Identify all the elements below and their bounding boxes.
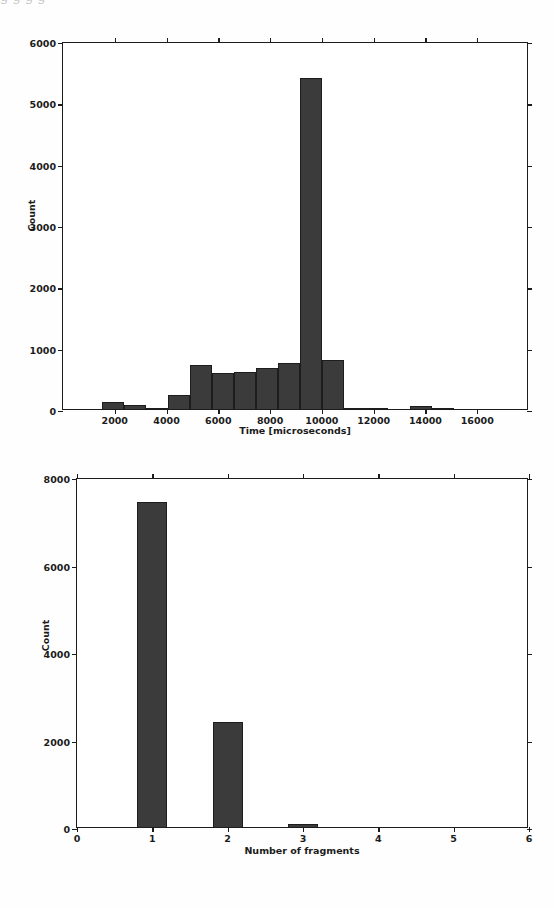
fragments-histogram-yaxis-title: Count (40, 620, 51, 652)
xtick-mark (152, 827, 153, 832)
histogram-bar (234, 372, 256, 409)
time-histogram-xaxis-title: Time [microseconds] (239, 425, 351, 436)
ytick-mark (72, 479, 77, 480)
xtick-label: 16000 (461, 415, 494, 426)
xtick-label: 4000 (153, 415, 179, 426)
xtick-mark-top (425, 38, 426, 43)
figure-page: g g g g 01000200030004000500060002000400… (0, 0, 554, 908)
xtick-label: 5 (450, 833, 457, 844)
xtick-mark-top (322, 38, 323, 43)
xtick-label: 2000 (102, 415, 128, 426)
xtick-mark (77, 827, 78, 832)
ytick-label: 6000 (44, 561, 70, 572)
xtick-label: 3 (300, 833, 307, 844)
ytick-mark-right (527, 742, 532, 743)
xtick-label: 6 (526, 833, 533, 844)
time-histogram-yaxis-title: Count (26, 200, 37, 232)
xtick-mark (374, 409, 375, 414)
xtick-mark-top (477, 38, 478, 43)
xtick-mark-top (115, 38, 116, 43)
xtick-mark (303, 827, 304, 832)
ytick-mark-right (527, 411, 532, 412)
xtick-mark (529, 827, 530, 832)
histogram-bar (432, 408, 454, 409)
xtick-mark-top (270, 38, 271, 43)
xtick-label: 0 (74, 833, 81, 844)
ytick-mark-right (527, 654, 532, 655)
histogram-bar (124, 405, 146, 409)
xtick-mark-top (167, 38, 168, 43)
xtick-mark-top (77, 474, 78, 479)
xtick-mark (115, 409, 116, 414)
xtick-mark (218, 409, 219, 414)
ytick-mark (58, 411, 63, 412)
xtick-label: 2 (224, 833, 231, 844)
fragments-histogram-figure: 020004000600080000123456 Number of fragm… (0, 455, 554, 908)
xtick-mark-top (378, 474, 379, 479)
histogram-bar (344, 408, 366, 409)
histogram-bar (410, 406, 432, 409)
ytick-mark-right (527, 104, 532, 105)
xtick-label: 4 (375, 833, 382, 844)
xtick-mark (477, 409, 478, 414)
ytick-mark-right (527, 350, 532, 351)
xtick-mark (425, 409, 426, 414)
histogram-bar (212, 373, 234, 409)
ytick-mark-right (527, 288, 532, 289)
histogram-bar (366, 408, 388, 409)
xtick-mark-top (303, 474, 304, 479)
histogram-bar (322, 360, 344, 409)
ytick-label: 6000 (30, 38, 56, 49)
xtick-mark-top (374, 38, 375, 43)
ytick-mark (72, 742, 77, 743)
xtick-label: 6000 (205, 415, 231, 426)
ytick-mark (72, 567, 77, 568)
ytick-mark-right (527, 567, 532, 568)
xtick-mark-top (454, 474, 455, 479)
ytick-mark-right (527, 227, 532, 228)
xtick-mark-top (228, 474, 229, 479)
ytick-mark-right (527, 166, 532, 167)
ytick-label: 8000 (44, 474, 70, 485)
xtick-mark-top (152, 474, 153, 479)
time-histogram-plot-area: 0100020003000400050006000200040006000800… (62, 42, 528, 410)
fragments-histogram-bars (77, 479, 527, 827)
ytick-mark (58, 350, 63, 351)
time-histogram-bars (63, 43, 527, 409)
ytick-mark-right (527, 479, 532, 480)
xtick-mark (378, 827, 379, 832)
histogram-bar (137, 502, 167, 827)
histogram-bar (278, 363, 300, 409)
ytick-mark (58, 43, 63, 44)
xtick-label: 12000 (357, 415, 390, 426)
ytick-mark-right (527, 43, 532, 44)
time-histogram-figure: 0100020003000400050006000200040006000800… (0, 0, 554, 455)
ytick-label: 0 (49, 406, 56, 417)
ytick-label: 4000 (30, 160, 56, 171)
xtick-mark-top (218, 38, 219, 43)
xtick-mark (228, 827, 229, 832)
ytick-label: 5000 (30, 99, 56, 110)
histogram-bar (146, 408, 168, 409)
histogram-bar (168, 395, 190, 409)
histogram-bar (102, 402, 124, 409)
ytick-mark (72, 654, 77, 655)
ytick-label: 2000 (44, 736, 70, 747)
fragments-histogram-plot-area: 020004000600080000123456 (76, 478, 528, 828)
xtick-mark (270, 409, 271, 414)
histogram-bar (213, 722, 243, 827)
ytick-mark (58, 166, 63, 167)
xtick-mark (322, 409, 323, 414)
ytick-label: 0 (63, 824, 70, 835)
ytick-mark (58, 288, 63, 289)
histogram-bar (190, 365, 212, 409)
xtick-label: 14000 (409, 415, 442, 426)
fragments-histogram-xaxis-title: Number of fragments (244, 845, 359, 856)
ytick-mark (58, 227, 63, 228)
ytick-label: 2000 (30, 283, 56, 294)
xtick-mark-top (529, 474, 530, 479)
histogram-bar (256, 368, 278, 409)
xtick-label: 1 (149, 833, 156, 844)
histogram-bar (300, 78, 322, 409)
ytick-label: 1000 (30, 344, 56, 355)
